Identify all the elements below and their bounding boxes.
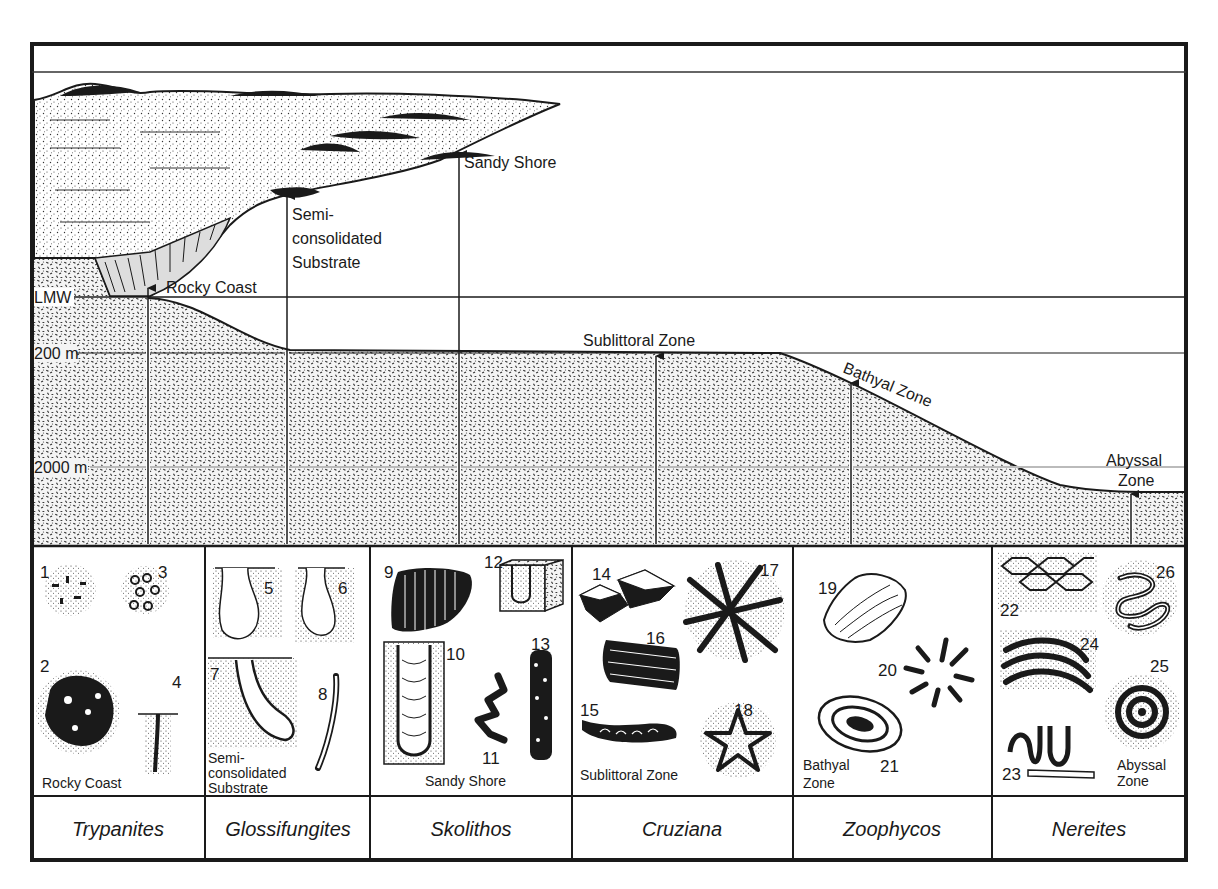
depth-200m-label: 200 m [34, 345, 78, 362]
trace-number-label: 5 [264, 579, 273, 598]
trace-number-label: 19 [818, 579, 837, 598]
trace-number-label: 21 [880, 757, 899, 776]
trace-number-label: 25 [1150, 657, 1169, 676]
rocky-coast-label: Rocky Coast [166, 279, 257, 296]
trace-16 [603, 640, 680, 690]
depth-2000m-label: 2000 m [34, 459, 87, 476]
trace-number-label: 18 [734, 701, 753, 720]
trace-1 [44, 564, 96, 616]
semi-label-3: Substrate [292, 254, 361, 271]
trace-number-label: 23 [1002, 765, 1021, 784]
trace-number-label: 7 [210, 665, 219, 684]
sandy-shore-label: Sandy Shore [464, 154, 557, 171]
trace-number-label: 13 [531, 635, 550, 654]
trace-number-label: 8 [318, 685, 327, 704]
trace-number-label: 14 [592, 565, 611, 584]
trace-12 [500, 565, 545, 611]
trace-number-label: 16 [646, 629, 665, 648]
trace-number-label: 26 [1156, 563, 1175, 582]
trace-number-label: 9 [384, 563, 393, 582]
panel-zone-label: Sublittoral Zone [580, 767, 678, 783]
lmw-label: LMW [34, 289, 72, 306]
trace-number-label: 3 [158, 563, 167, 582]
trace-number-label: 20 [878, 661, 897, 680]
semi-label-1: Semi- [292, 206, 334, 223]
trace-number-label: 17 [760, 561, 779, 580]
facies-skolithos: Skolithos [430, 818, 511, 840]
panel-zone-label: consolidated [208, 765, 287, 781]
panel-zone-label: Semi- [208, 750, 245, 766]
facies-zoophycos: Zoophycos [842, 818, 941, 840]
trace-number-label: 4 [172, 673, 181, 692]
panel-zone-label: Bathyal [803, 757, 850, 773]
trace-number-label: 24 [1080, 635, 1099, 654]
abyssal-label-2: Zone [1118, 472, 1155, 489]
trace-13 [530, 650, 552, 760]
ichnofacies-diagram: LMW 200 m 2000 m Sandy Shore Semi- conso… [0, 0, 1218, 889]
trace-number-label: 12 [484, 553, 503, 572]
sublittoral-label: Sublittoral Zone [583, 332, 695, 349]
semi-label-2: consolidated [292, 230, 382, 247]
facies-glossifungites: Glossifungites [225, 818, 351, 840]
panel-zone-label: Abyssal [1117, 757, 1166, 773]
panel-zone-label: Zone [803, 775, 835, 791]
abyssal-label-1: Abyssal [1106, 452, 1162, 469]
trace-number-label: 22 [1000, 601, 1019, 620]
panel-zone-label: Substrate [208, 780, 268, 796]
trace-number-label: 10 [446, 645, 465, 664]
panel-zone-label: Rocky Coast [42, 775, 121, 791]
trace-number-label: 6 [338, 579, 347, 598]
trace-number-label: 15 [580, 701, 599, 720]
trace-number-label: 1 [40, 563, 49, 582]
trace-number-label: 2 [40, 657, 49, 676]
facies-trypanites: Trypanites [72, 818, 164, 840]
panel-zone-label: Sandy Shore [425, 773, 506, 789]
facies-cruziana: Cruziana [642, 818, 722, 840]
panel-zone-label: Zone [1117, 773, 1149, 789]
trace-number-label: 11 [482, 749, 500, 768]
facies-nereites: Nereites [1052, 818, 1126, 840]
